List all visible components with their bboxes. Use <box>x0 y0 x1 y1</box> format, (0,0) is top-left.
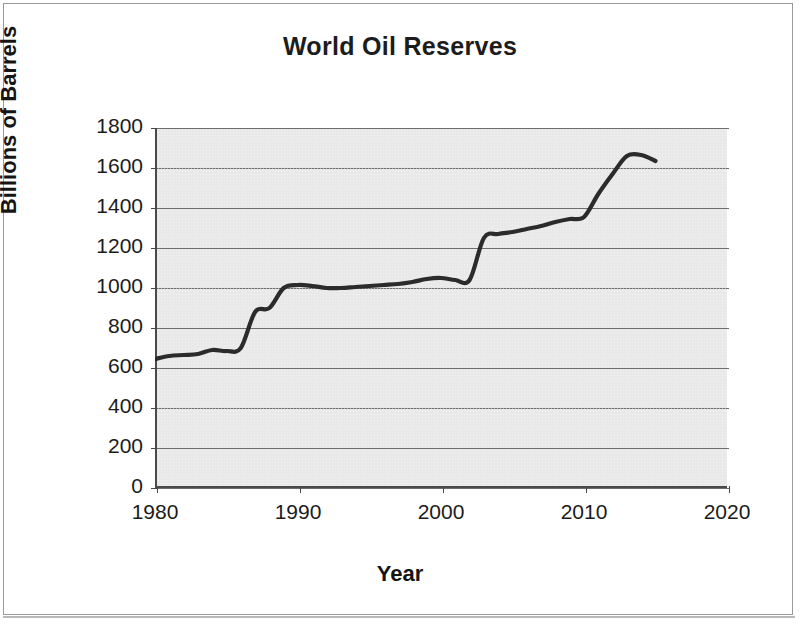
x-axis-title: Year <box>0 561 800 587</box>
y-axis-tick-label: 400 <box>0 394 143 418</box>
y-axis-tick-label: 1000 <box>0 274 143 298</box>
x-axis-tick-label: 2020 <box>682 500 772 524</box>
y-axis-tick-label: 0 <box>0 474 143 498</box>
x-tick-mark <box>729 486 730 493</box>
x-axis-tick-label: 1990 <box>253 500 343 524</box>
data-series-line <box>155 128 727 488</box>
y-axis-tick-label: 600 <box>0 354 143 378</box>
y-axis-tick-label: 200 <box>0 434 143 458</box>
x-axis-tick-label: 2010 <box>539 500 629 524</box>
y-axis-tick-label: 1400 <box>0 194 143 218</box>
x-axis-tick-label: 2000 <box>396 500 486 524</box>
page-bottom-edge <box>3 616 795 618</box>
y-axis-tick-label: 1800 <box>0 114 143 138</box>
chart-title: World Oil Reserves <box>0 32 800 61</box>
screenshot-page: World Oil Reserves Billions of Barrels 0… <box>0 0 800 639</box>
y-axis-tick-label: 800 <box>0 314 143 338</box>
y-axis-tick-label: 1600 <box>0 154 143 178</box>
x-axis-tick-label: 1980 <box>110 500 200 524</box>
y-axis-tick-label: 1200 <box>0 234 143 258</box>
